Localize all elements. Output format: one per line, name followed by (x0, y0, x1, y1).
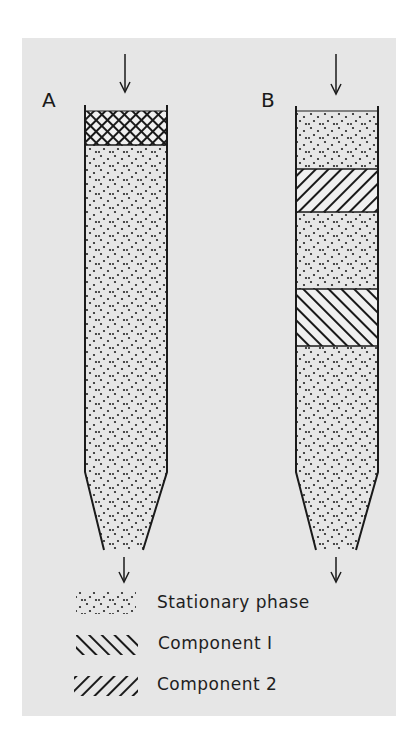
legend-swatches (74, 592, 138, 696)
legend-swatch-component-2 (74, 676, 138, 696)
column-b-label: B (261, 88, 275, 112)
legend-swatch-component-1 (76, 635, 138, 655)
sample-band-a (85, 111, 167, 145)
legend-label-component-1: Component I (158, 633, 273, 653)
column-a-label: A (42, 88, 56, 112)
column-b (296, 54, 378, 582)
column-a (85, 54, 167, 582)
legend-label-component-2: Component 2 (157, 674, 277, 694)
legend-label-stationary: Stationary phase (157, 592, 310, 612)
component-2-band (296, 169, 378, 212)
stationary-phase-a (85, 145, 167, 550)
legend-swatch-stationary (76, 592, 136, 614)
component-1-band (296, 289, 378, 346)
